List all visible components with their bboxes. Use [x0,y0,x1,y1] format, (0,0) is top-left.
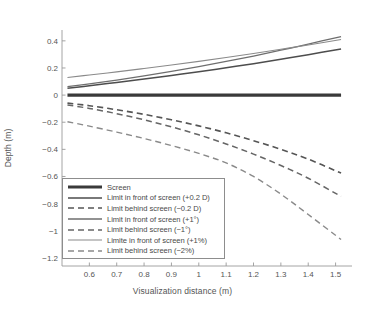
y-axis-title: Depth (m) [3,116,13,180]
x-tick-label: 1 [197,270,201,279]
legend-label: Limit behind screen (−0.2 D) [103,204,201,213]
y-tick-label: −1.2 [20,253,58,262]
legend-line-swatch [67,203,103,213]
y-tick-label: −0.8 [20,199,58,208]
y-tick-label: −1 [20,226,58,235]
y-tick-label: −0.2 [20,118,58,127]
y-tick-label: −0.4 [20,145,58,154]
legend-label: Limit behind screen (−1°) [103,225,190,234]
y-tick-label: 0.2 [20,63,58,72]
figure-container: 0.60.70.80.911.11.21.31.41.5 0.40.20−0.2… [0,0,365,310]
y-tick-label: 0.4 [20,36,58,45]
series-line-5 [67,39,341,77]
x-tick-label: 1.5 [330,270,341,279]
legend-item: Limit behind screen (−2%) [63,246,224,257]
legend-item: Limit behind screen (−1°) [63,224,224,235]
legend-label: Limite in front of screen (+1%) [103,236,207,245]
legend-label: Screen [103,183,131,192]
legend-item: Screen [63,182,224,193]
x-axis-title: Visualization distance (m) [0,286,365,296]
legend-line-swatch [67,214,103,224]
chart-legend: ScreenLimit in front of screen (+0.2 D)L… [62,178,225,259]
legend-label: Limit behind screen (−2%) [103,246,194,255]
legend-line-swatch [67,235,103,245]
series-line-1 [67,49,341,88]
x-tick-label: 0.8 [139,270,150,279]
legend-line-swatch [67,182,103,192]
x-tick-label: 1.1 [221,270,232,279]
legend-line-swatch [67,225,103,235]
legend-line-swatch [67,246,103,256]
legend-label: Limit in front of screen (+1°) [103,215,199,224]
legend-line-swatch [67,193,103,203]
legend-item: Limit in front of screen (+1°) [63,214,224,225]
legend-item: Limite in front of screen (+1%) [63,235,224,246]
series-line-2 [67,103,341,173]
x-tick-label: 0.6 [84,270,95,279]
y-tick-label: −0.6 [20,172,58,181]
legend-item: Limit behind screen (−0.2 D) [63,203,224,214]
legend-label: Limit in front of screen (+0.2 D) [103,193,210,202]
series-line-3 [67,37,341,87]
chart-canvas [0,0,365,310]
x-tick-label: 0.7 [111,270,122,279]
legend-item: Limit in front of screen (+0.2 D) [63,193,224,204]
x-tick-label: 1.3 [275,270,286,279]
x-tick-label: 0.9 [166,270,177,279]
y-tick-label: 0 [20,91,58,100]
x-tick-label: 1.2 [248,270,259,279]
x-tick-label: 1.4 [303,270,314,279]
